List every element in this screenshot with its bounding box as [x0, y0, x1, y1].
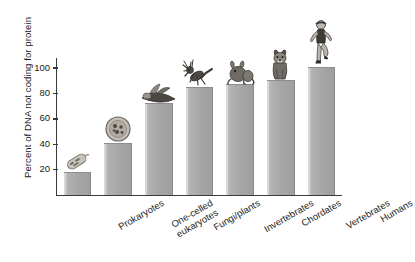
- dog-illustration: [267, 49, 293, 81]
- insect-illustration: [181, 58, 217, 88]
- bar-series: [57, 58, 342, 195]
- x-axis-labels: Prokaryotes One-celled eukaryotes Fungi/…: [56, 198, 342, 260]
- plot-area: 20 40 60 80 100: [56, 58, 342, 196]
- frog-chordate-illustration: [224, 59, 256, 85]
- y-tick-label: 100: [34, 62, 50, 73]
- x-label-one-celled-eukaryotes: One-celled eukaryotes: [169, 198, 220, 239]
- bar-fungi-plants: [145, 103, 173, 195]
- y-tick-label: 80: [39, 87, 50, 98]
- y-tick-label: 60: [39, 112, 50, 123]
- y-tick-label: 40: [39, 138, 50, 149]
- protist-cell-illustration: [103, 114, 133, 144]
- y-axis-title: Percent of DNA not coding for protein: [22, 13, 33, 183]
- bar-slot-chordates: [222, 58, 258, 195]
- bar-slot-fungi-plants: [141, 58, 177, 195]
- bar-slot-invertebrates: [182, 58, 218, 195]
- bar-slot-humans: [304, 58, 340, 195]
- bar-chordates: [226, 84, 254, 195]
- bar-prokaryotes: [64, 172, 92, 195]
- bar-vertebrates: [267, 80, 295, 195]
- x-label-prokaryotes: Prokaryotes: [117, 198, 166, 232]
- plant-fungi-illustration: [138, 80, 178, 104]
- running-human-illustration: [306, 18, 336, 68]
- y-tick-label: 20: [39, 163, 50, 174]
- bar-humans: [308, 67, 336, 195]
- bacterium-illustration: [64, 151, 90, 173]
- bar-slot-one-celled-eukaryotes: [100, 58, 136, 195]
- bar-one-celled-eukaryotes: [104, 143, 132, 195]
- bar-invertebrates: [186, 87, 214, 195]
- bar-slot-prokaryotes: [59, 58, 95, 195]
- bar-slot-vertebrates: [263, 58, 299, 195]
